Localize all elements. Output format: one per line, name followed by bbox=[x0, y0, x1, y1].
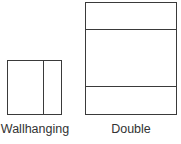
double-top-divider bbox=[85, 29, 177, 30]
double-label: Double bbox=[85, 123, 177, 136]
wallhanging-vertical-divider bbox=[43, 60, 44, 115]
wallhanging-rectangle bbox=[7, 60, 62, 115]
wallhanging-label: Wallhanging bbox=[0, 123, 70, 136]
double-rectangle bbox=[85, 2, 177, 115]
double-bottom-divider bbox=[85, 86, 177, 87]
